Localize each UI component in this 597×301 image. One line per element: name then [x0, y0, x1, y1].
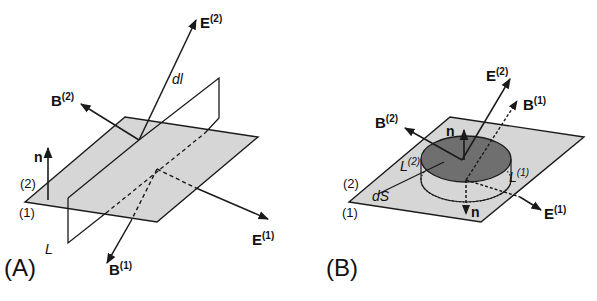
ds-label: dS	[372, 188, 390, 204]
loop-l-label: L	[45, 241, 53, 257]
b1-label: B(1)	[109, 260, 132, 278]
medium-1-label: (1)	[342, 205, 358, 220]
panel-a: E(2) B(2) dl n (2) (1) E(1) B(1) L (A)	[4, 13, 274, 281]
b2-label: B(2)	[375, 113, 398, 131]
n-label: n	[34, 149, 43, 165]
b1-label: B(1)	[523, 95, 546, 113]
medium-2-label: (2)	[343, 176, 359, 191]
boundary-conditions-diagram: E(2) B(2) dl n (2) (1) E(1) B(1) L (A)	[0, 0, 597, 301]
panel-b-label: (B)	[326, 254, 358, 281]
e2-arrow	[139, 20, 196, 140]
e1-arrow	[520, 197, 541, 210]
upper-disk-l2	[421, 136, 511, 182]
e2-label: E(2)	[200, 13, 222, 31]
panel-a-label: (A)	[4, 254, 36, 281]
n-down-label: n	[471, 204, 480, 220]
interface-plane	[25, 117, 258, 222]
b2-label: B(2)	[51, 91, 74, 109]
e1-label: E(1)	[544, 204, 566, 222]
n-up-label: n	[446, 123, 455, 139]
medium-1-label: (1)	[19, 205, 35, 220]
e2-label: E(2)	[486, 66, 508, 84]
b1-arrow	[107, 221, 131, 263]
dl-label: dl	[172, 71, 184, 87]
e1-arrow	[196, 188, 268, 219]
medium-2-label: (2)	[20, 176, 36, 191]
e1-label: E(1)	[252, 230, 274, 248]
panel-b: E(2) B(1) B(2) n n L(2) L(1) dS (2) (1) …	[326, 66, 584, 281]
